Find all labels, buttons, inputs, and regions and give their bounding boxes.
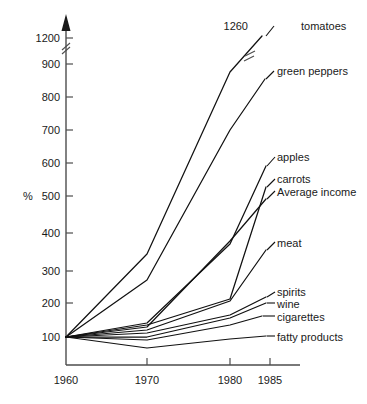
y-tick-700: 700 xyxy=(42,124,73,136)
x-tick-label: 1980 xyxy=(218,374,242,386)
series-label-average-income: Average income xyxy=(277,186,356,198)
y-tick-600: 600 xyxy=(42,157,73,169)
y-tick-label: 1200 xyxy=(36,32,60,44)
leader-average-income xyxy=(267,191,275,199)
y-tick-1200: 1200 xyxy=(36,32,73,44)
series-label-carrots: carrots xyxy=(277,173,311,185)
series-label-spirits: spirits xyxy=(277,286,306,298)
series-label-wine: wine xyxy=(276,298,300,310)
leader-tomatoes xyxy=(266,26,274,36)
y-axis-ticks: 1200 900 800 700 600 500 400 300 200 100 xyxy=(36,32,73,343)
x-tick-1980: 1980 xyxy=(218,358,242,386)
y-axis-unit-label: % xyxy=(23,190,33,202)
y-tick-300: 300 xyxy=(42,265,73,277)
y-tick-800: 800 xyxy=(42,91,73,103)
y-tick-500: 500 xyxy=(42,190,73,202)
leader-apples xyxy=(267,157,275,166)
line-chart-svg: 1200 900 800 700 600 500 400 300 200 100… xyxy=(0,0,367,404)
x-axis-ticks: 1960 1970 1980 1985 xyxy=(54,358,282,386)
label-leaders-group xyxy=(263,26,275,336)
y-tick-label: 400 xyxy=(42,227,60,239)
axes-group xyxy=(62,14,301,365)
x-tick-label: 1985 xyxy=(258,374,282,386)
series-label-tomatoes: tomatoes xyxy=(301,20,347,32)
series-label-fatty-products: fatty products xyxy=(277,331,344,343)
x-tick-label: 1960 xyxy=(54,374,78,386)
y-tick-900: 900 xyxy=(42,58,73,70)
tomatoes-value-annotation: 1260 xyxy=(224,20,248,32)
leader-meat xyxy=(267,242,275,250)
chart-figure: 1200 900 800 700 600 500 400 300 200 100… xyxy=(0,0,367,404)
series-label-green-peppers: green peppers xyxy=(277,65,348,77)
x-tick-label: 1970 xyxy=(135,374,159,386)
series-label-apples: apples xyxy=(277,151,310,163)
series-label-meat: meat xyxy=(277,237,301,249)
y-tick-label: 100 xyxy=(42,331,60,343)
leader-spirits xyxy=(267,292,275,297)
y-tick-label: 300 xyxy=(42,265,60,277)
series-label-cigarettes: cigarettes xyxy=(277,311,325,323)
tomatoes-line-break-icon xyxy=(244,51,255,61)
y-axis-arrowhead xyxy=(62,14,71,31)
y-tick-label: 700 xyxy=(42,124,60,136)
x-tick-1970: 1970 xyxy=(135,358,159,386)
y-tick-400: 400 xyxy=(42,227,73,239)
y-tick-200: 200 xyxy=(42,297,73,309)
series-line-carrots xyxy=(66,187,266,337)
series-labels-group: tomatoes green peppers apples carrots Av… xyxy=(276,20,356,343)
leader-green-peppers xyxy=(266,71,274,79)
y-tick-label: 500 xyxy=(42,190,60,202)
x-tick-1985: 1985 xyxy=(258,358,282,386)
data-series-group xyxy=(66,36,266,348)
y-tick-label: 800 xyxy=(42,91,60,103)
y-tick-label: 600 xyxy=(42,157,60,169)
series-line-spirits xyxy=(66,297,266,337)
leader-carrots xyxy=(267,179,275,187)
series-line-green-peppers xyxy=(66,79,265,337)
y-tick-label: 200 xyxy=(42,297,60,309)
x-tick-1960: 1960 xyxy=(54,374,78,386)
y-tick-label: 900 xyxy=(42,58,60,70)
